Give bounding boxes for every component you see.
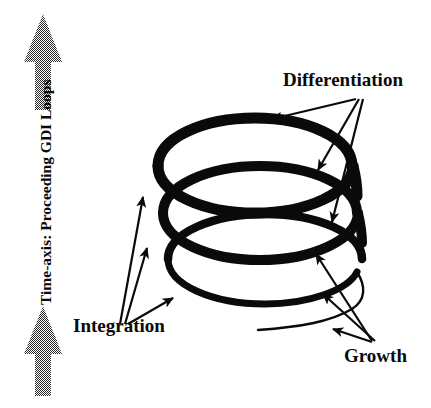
integration-label: Integration: [73, 315, 165, 336]
coil-link-2-3: [358, 213, 362, 243]
time-axis-label: Time-axis: Proceeding GDI Loops: [37, 80, 54, 305]
differentiation-label: Differentiation: [283, 69, 403, 90]
gdi-spiral-figure: Time-axis: Proceeding GDI Loops Differen…: [0, 0, 431, 408]
figure-canvas: Time-axis: Proceeding GDI Loops Differen…: [0, 0, 431, 408]
growth-label: Growth: [344, 345, 407, 366]
